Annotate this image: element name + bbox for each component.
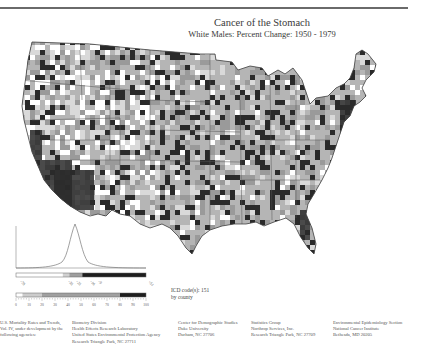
- footer-line: Bethesda, MD 20205: [333, 332, 402, 338]
- svg-text:-78: -78: [19, 279, 26, 286]
- svg-text:-35: -35: [67, 279, 74, 286]
- map-subtitle: White Males: Percent Change: 1950 - 1979: [50, 29, 424, 39]
- map-title: Cancer of the Stomach: [50, 17, 424, 28]
- footer-agency-duke: Center for Demographic Studies Duke Univ…: [178, 320, 238, 339]
- svg-text:-25: -25: [75, 279, 82, 286]
- footer-agency-epa: Biometry Division Health Effects Researc…: [72, 320, 160, 345]
- svg-text:10: 10: [27, 303, 31, 307]
- footer-source-note: U.S. Mortality Rates and Trends, Vol. IV…: [0, 320, 63, 339]
- svg-text:-16: -16: [89, 279, 96, 286]
- svg-text:90: 90: [131, 303, 135, 307]
- footer-line: Research Triangle Park, NC 27709: [251, 332, 315, 338]
- distribution-curve: [16, 224, 146, 268]
- scale-ticks: 0102030405060708090100: [15, 298, 149, 307]
- svg-text:40: 40: [66, 303, 70, 307]
- footer-agency-nci: Environmental Epidemiology Section Natio…: [333, 320, 402, 339]
- class-labels: -78-35-25-16-9+51: [19, 279, 155, 287]
- svg-text:70: 70: [105, 303, 109, 307]
- scale-bar: [16, 293, 146, 297]
- svg-text:-9: -9: [97, 279, 103, 285]
- footer-line: Research Triangle Park, NC 27711: [72, 339, 160, 345]
- svg-text:20: 20: [40, 303, 44, 307]
- svg-text:50: 50: [79, 303, 83, 307]
- svg-text:100: 100: [143, 303, 149, 307]
- svg-text:+51: +51: [147, 279, 155, 287]
- footer-line: Durham, NC 27706: [178, 332, 238, 338]
- footer-line: following agencies:: [0, 332, 63, 338]
- top-rule: [0, 7, 408, 9]
- svg-text:80: 80: [118, 303, 122, 307]
- legend: -78-35-25-16-9+51 0102030405060708090100: [0, 222, 160, 312]
- icd-code: ICD code(s): 151: [171, 287, 209, 294]
- icd-code-label: ICD code(s): 151 by county: [171, 287, 209, 301]
- svg-text:60: 60: [92, 303, 96, 307]
- class-bar: [16, 273, 146, 277]
- footer-agency-northrop: Statistics Group Northrop Services, Inc.…: [251, 320, 315, 339]
- svg-text:30: 30: [53, 303, 57, 307]
- unit-label: by county: [171, 294, 209, 301]
- svg-text:0: 0: [15, 303, 17, 307]
- footer-line: United States Environmental Protection A…: [72, 332, 160, 338]
